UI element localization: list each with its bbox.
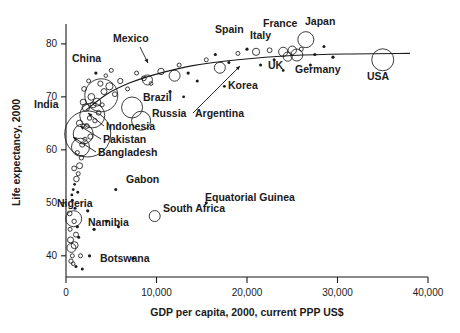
data-point xyxy=(169,70,180,81)
data-point xyxy=(298,32,314,48)
x-tick-label: 30,000 xyxy=(322,287,353,298)
point-label-italy: Italy xyxy=(250,29,271,41)
data-point xyxy=(259,64,262,67)
data-point xyxy=(74,176,80,182)
data-point xyxy=(214,62,225,73)
data-point xyxy=(245,48,248,51)
data-point xyxy=(126,87,130,91)
data-point xyxy=(322,45,325,48)
data-point xyxy=(71,138,89,156)
x-tick-label: 40,000 xyxy=(413,287,444,298)
point-label-botswana: Botswana xyxy=(100,252,150,264)
point-label-japan: Japan xyxy=(305,15,335,27)
data-point xyxy=(66,211,82,227)
point-label-gabon: Gabon xyxy=(126,173,159,185)
point-label-china: China xyxy=(72,52,101,64)
x-axis-title: GDP per capita, 2000, current PPP US$ xyxy=(150,306,344,318)
y-tick-label: 50 xyxy=(46,197,58,208)
data-point xyxy=(72,166,77,171)
data-point xyxy=(288,46,296,54)
data-point xyxy=(76,191,79,194)
data-point xyxy=(101,89,107,95)
data-point xyxy=(112,92,117,97)
data-point xyxy=(88,254,91,257)
data-point xyxy=(69,259,73,263)
data-point xyxy=(77,163,83,169)
data-point xyxy=(182,95,185,98)
data-point xyxy=(223,85,226,88)
point-label-usa: USA xyxy=(367,70,390,82)
data-point xyxy=(73,183,76,186)
x-tick-label: 10,000 xyxy=(141,287,172,298)
point-label-india: India xyxy=(34,98,59,110)
data-point xyxy=(214,53,217,56)
point-label-mexico: Mexico xyxy=(113,32,149,44)
data-point xyxy=(77,236,80,239)
x-tick-label: 0 xyxy=(63,287,69,298)
point-label-brazil: Brazil xyxy=(143,91,172,103)
data-point xyxy=(187,71,190,74)
point-label-argentina: Argentina xyxy=(195,107,244,119)
data-point xyxy=(98,81,103,86)
data-point xyxy=(81,268,84,271)
y-tick-label: 60 xyxy=(46,144,58,155)
data-point xyxy=(252,48,259,55)
point-label-spain: Spain xyxy=(215,23,244,35)
data-point xyxy=(87,116,91,120)
data-point xyxy=(104,74,108,78)
data-point xyxy=(118,78,123,83)
data-point xyxy=(372,49,394,71)
point-label-indonesia: Indonesia xyxy=(106,120,155,132)
y-tick-label: 40 xyxy=(46,250,58,261)
point-label-germany: Germany xyxy=(295,63,341,75)
data-point xyxy=(135,71,139,75)
data-point xyxy=(94,71,97,74)
data-point xyxy=(331,56,334,59)
point-label-bangladesh: Bangladesh xyxy=(98,146,158,158)
data-point xyxy=(267,48,272,53)
data-point xyxy=(122,97,143,118)
data-point xyxy=(86,209,89,212)
data-point xyxy=(92,228,95,231)
data-point xyxy=(196,79,199,82)
data-point xyxy=(70,254,74,258)
data-point xyxy=(149,211,160,222)
point-label-nigeria: Nigeria xyxy=(57,197,93,209)
y-axis-title: Life expectancy, 2000 xyxy=(10,99,22,206)
data-point xyxy=(74,265,77,268)
data-point xyxy=(177,63,181,67)
y-tick-label: 80 xyxy=(46,38,58,49)
data-point xyxy=(72,188,75,191)
chart-canvas: 4050607080010,00020,00030,00040,000 Chin… xyxy=(0,0,460,333)
scatter-chart: 4050607080010,00020,00030,00040,000 Chin… xyxy=(0,0,460,333)
point-label-pakistan: Pakistan xyxy=(103,133,146,145)
point-label-france: France xyxy=(263,17,298,29)
data-point xyxy=(106,83,113,90)
data-point xyxy=(68,227,72,231)
data-point xyxy=(236,51,240,55)
data-point xyxy=(71,262,75,266)
data-point xyxy=(70,193,73,196)
data-point xyxy=(88,93,95,100)
data-point xyxy=(204,58,208,62)
point-label-south-africa: South Africa xyxy=(163,202,225,214)
point-label-namibia: Namibia xyxy=(88,216,129,228)
point-label-uk: UK xyxy=(268,59,284,71)
data-point xyxy=(114,188,117,191)
data-point xyxy=(78,254,82,258)
point-label-korea: Korea xyxy=(228,79,258,91)
data-point xyxy=(87,79,91,83)
data-point xyxy=(76,172,80,176)
data-point xyxy=(109,68,113,72)
data-point xyxy=(72,219,76,223)
x-tick-label: 20,000 xyxy=(232,287,263,298)
point-label-russia: Russia xyxy=(152,107,187,119)
